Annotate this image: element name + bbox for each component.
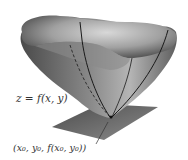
surface-label: z = f(x, y)	[16, 92, 68, 104]
surface-diagram	[0, 0, 188, 160]
tangent-point	[110, 116, 113, 119]
point-label: (x₀, y₀, f(x₀, y₀))	[13, 142, 86, 153]
